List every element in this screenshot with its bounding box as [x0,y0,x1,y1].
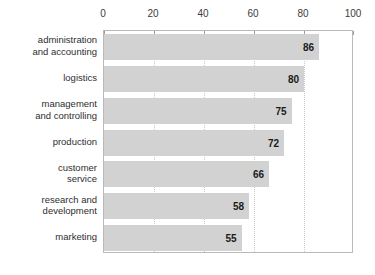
bar: 55 [104,225,242,251]
bar: 72 [104,130,284,156]
category-label: management and controlling [0,98,97,121]
category-label: marketing [0,231,97,243]
bar: 66 [104,161,269,187]
x-axis-tick-labels: 020406080100 [0,8,375,22]
x-axis-tick-label: 20 [147,8,158,20]
category-label: research and development [0,194,97,217]
x-axis-tick-label: 80 [297,8,308,20]
x-axis-tick-label: 100 [345,8,362,20]
bar-value-label: 58 [233,201,244,212]
plot-area: 86807572665855 [103,30,353,253]
category-label: logistics [0,72,97,84]
bar-value-label: 55 [225,233,236,244]
category-axis-labels: administration and accountinglogisticsma… [0,30,97,253]
x-axis-tick-label: 60 [247,8,258,20]
bar-value-label: 66 [253,169,264,180]
category-label: production [0,136,97,148]
bar-chart: 020406080100 administration and accounti… [0,0,375,275]
bar-value-label: 80 [288,73,299,84]
bar: 58 [104,193,249,219]
x-axis-tick-label: 0 [100,8,106,20]
x-axis-tick-mark [353,31,354,35]
category-label: customer service [0,162,97,185]
bar: 80 [104,66,304,92]
bar: 75 [104,98,292,124]
x-axis-tick-label: 40 [197,8,208,20]
bar-value-label: 75 [275,105,286,116]
category-label: administration and accounting [0,34,97,57]
bar-value-label: 86 [303,41,314,52]
bar: 86 [104,34,319,60]
gridline [304,31,305,252]
bar-value-label: 72 [268,137,279,148]
